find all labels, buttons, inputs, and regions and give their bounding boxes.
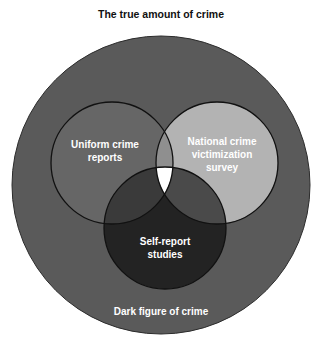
label-self-report-studies-line1: Self-report xyxy=(140,236,191,247)
label-dark-figure-of-crime: Dark figure of crime xyxy=(114,306,209,317)
figure-title: The true amount of crime xyxy=(98,8,224,20)
label-self-report-studies-line2: studies xyxy=(147,249,182,260)
label-uniform-crime-reports-line2: reports xyxy=(88,152,123,163)
label-uniform-crime-reports-line1: Uniform crime xyxy=(71,139,139,150)
label-national-crime-victimization-survey-line2: victimization xyxy=(192,149,253,160)
label-national-crime-victimization-survey-line1: National crime xyxy=(188,136,257,147)
venn-diagram-figure: The true amount of crime Uniform crime r… xyxy=(0,0,322,355)
label-national-crime-victimization-survey-line3: survey xyxy=(206,162,239,173)
